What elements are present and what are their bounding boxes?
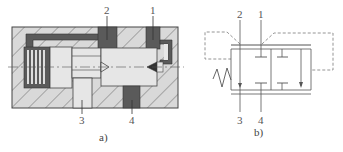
- panel-b-symbol: 2 1 3 4 b): [205, 8, 333, 139]
- spool-stem: [72, 48, 101, 78]
- port-4-channel: [123, 86, 140, 108]
- spring-return-icon: [213, 68, 231, 87]
- right-pilot-line: [262, 33, 333, 70]
- panel-b-port-4-label: 4: [258, 114, 264, 126]
- flow-arrow-1-4: [299, 82, 303, 88]
- panel-a-port-3-label: 3: [79, 114, 85, 126]
- flow-arrow-2-3: [238, 83, 242, 88]
- port-2-channel: [98, 27, 117, 49]
- panel-a-port-4-label: 4: [129, 114, 135, 126]
- panel-a-port-2-label: 2: [104, 4, 110, 16]
- left-piston: [50, 47, 72, 88]
- panel-b-port-1-label: 1: [258, 8, 264, 20]
- valve-figure: 2 1 3 4 a): [0, 0, 343, 152]
- panel-b-port-3-label: 3: [237, 114, 243, 126]
- panel-a-port-1-label: 1: [150, 4, 156, 16]
- panel-b-port-2-label: 2: [237, 8, 243, 20]
- panel-a-caption: a): [99, 131, 108, 144]
- panel-a-section-view: 2 1 3 4 a): [8, 4, 184, 144]
- port-3-channel: [73, 78, 92, 108]
- port-1-side-loop-window: [164, 44, 168, 60]
- panel-b-caption: b): [254, 126, 264, 139]
